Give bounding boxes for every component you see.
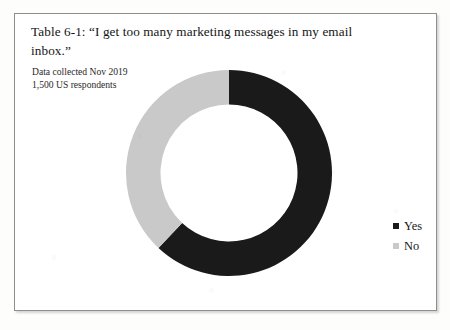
- page-title: Table 6-1: “I get too many marketing mes…: [31, 22, 393, 60]
- donut-chart-svg: [121, 61, 335, 285]
- donut-chart: [121, 61, 335, 285]
- figure-frame: Table 6-1: “I get too many marketing mes…: [14, 13, 437, 311]
- legend-label-no: No: [404, 240, 419, 252]
- chart-legend: Yes No: [393, 217, 450, 257]
- scanned-page-surface: Table 6-1: “I get too many marketing mes…: [0, 0, 450, 330]
- legend-item-no[interactable]: No: [393, 237, 450, 255]
- donut-slice-no[interactable]: [126, 70, 229, 248]
- legend-item-yes[interactable]: Yes: [393, 217, 450, 235]
- legend-label-yes: Yes: [404, 220, 422, 232]
- donut-slice-group: [126, 70, 332, 276]
- square-marker-icon: [393, 223, 399, 229]
- square-marker-icon: [393, 243, 399, 249]
